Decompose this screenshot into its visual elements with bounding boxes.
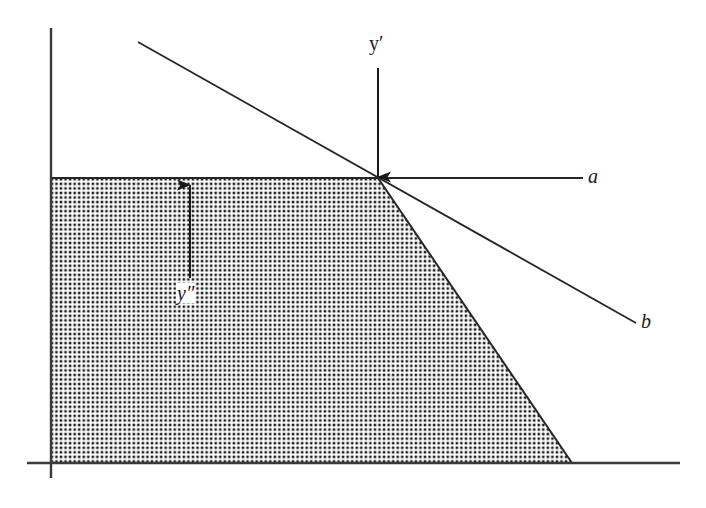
line-b-label: b: [641, 311, 651, 331]
y-prime-label: y′: [369, 33, 383, 53]
diagram-canvas: a b y′ y″: [0, 0, 706, 508]
y-double-prime-label: y″: [176, 283, 195, 303]
diagram-svg: [0, 0, 706, 508]
line-a-label: a: [588, 166, 598, 186]
shaded-region: [52, 178, 572, 463]
